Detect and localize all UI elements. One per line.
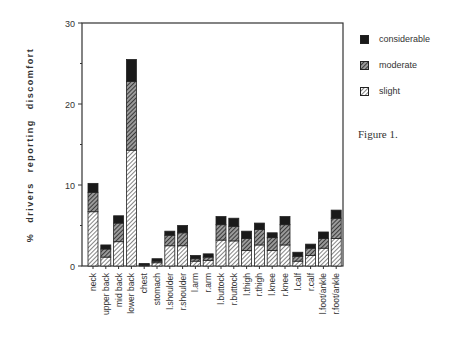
bar-neck <box>88 183 98 266</box>
bar-r-calf <box>306 244 316 266</box>
bar-segment-considerable <box>203 254 213 257</box>
legend-item-slight: slight <box>360 85 430 97</box>
bar-segment-considerable <box>152 259 162 261</box>
x-tick-label: lower back <box>126 272 136 313</box>
bar-segment-slight <box>178 246 188 266</box>
bar-segment-slight <box>152 263 162 266</box>
bar-segment-moderate <box>203 257 213 260</box>
bar-segment-moderate <box>331 218 341 238</box>
bar-segment-slight <box>101 257 111 266</box>
bar-segment-considerable <box>293 252 303 256</box>
legend-swatch-considerable <box>360 35 369 44</box>
bar-segment-slight <box>306 255 316 266</box>
bar-l-foot-ankle <box>318 232 328 266</box>
x-tick-label: l.knee <box>267 273 277 296</box>
bar-segment-moderate <box>242 238 252 250</box>
bar-segment-moderate <box>114 223 124 242</box>
bar-segment-slight <box>165 246 175 266</box>
bar-segment-slight <box>280 245 290 266</box>
bar-r-buttock <box>229 218 239 266</box>
bar-segment-moderate <box>267 238 277 251</box>
legend-label: moderate <box>379 60 417 70</box>
bar-segment-moderate <box>293 256 303 261</box>
bar-segment-considerable <box>216 217 226 225</box>
bar-segment-considerable <box>88 183 98 192</box>
chart-bars <box>88 59 341 266</box>
x-axis-labels: neckupper backmid backlower backcheststo… <box>88 266 341 315</box>
bar-segment-considerable <box>280 217 290 225</box>
bar-segment-slight <box>216 240 226 266</box>
bar-segment-considerable <box>331 210 341 218</box>
bar-segment-moderate <box>88 192 98 211</box>
bar-segment-considerable <box>254 223 264 229</box>
x-tick-label: chest <box>139 272 149 293</box>
bar-segment-moderate <box>254 230 264 245</box>
bar-segment-slight <box>331 238 341 266</box>
bar-segment-slight <box>267 251 277 266</box>
bar-segment-considerable <box>267 233 277 238</box>
bar-upper-back <box>101 245 111 266</box>
bar-chest <box>139 264 149 266</box>
legend-label: considerable <box>379 34 430 44</box>
legend-item-considerable: considerable <box>360 33 430 45</box>
bar-r-foot-ankle <box>331 210 341 266</box>
x-tick-label: r.knee <box>280 273 290 296</box>
bar-lower-back <box>126 59 136 266</box>
bar-l-buttock <box>216 217 226 266</box>
x-tick-label: l.shoulder <box>165 273 175 310</box>
bar-segment-considerable <box>190 255 200 258</box>
bar-segment-slight <box>254 245 264 266</box>
bar-stomach <box>152 259 162 266</box>
x-tick-label: stomach <box>152 273 162 305</box>
figure-caption: Figure 1. <box>358 128 398 140</box>
bar-segment-considerable <box>139 264 149 265</box>
bar-segment-slight <box>318 248 328 266</box>
bar-segment-considerable <box>318 232 328 238</box>
x-tick-label: r.arm <box>203 273 213 292</box>
bar-r-shoulder <box>178 226 188 267</box>
x-tick-label: r.thigh <box>254 273 264 296</box>
bar-segment-considerable <box>306 244 316 248</box>
y-tick-label: 10 <box>65 181 75 191</box>
bar-segment-moderate <box>280 225 290 245</box>
bar-segment-moderate <box>126 81 136 150</box>
bar-segment-moderate <box>216 225 226 240</box>
y-tick-label: 20 <box>65 100 75 110</box>
x-tick-label: upper back <box>101 272 111 315</box>
bar-segment-considerable <box>242 231 252 238</box>
bar-r-arm <box>203 254 213 266</box>
bar-segment-slight <box>229 241 239 266</box>
bar-segment-moderate <box>318 238 328 248</box>
bar-segment-moderate <box>229 226 239 241</box>
bar-segment-moderate <box>101 249 111 257</box>
x-tick-label: r.buttock <box>229 272 239 305</box>
chart-legend: considerable moderate slight <box>360 33 430 111</box>
x-tick-label: r.shoulder <box>178 273 188 310</box>
x-tick-label: l.calf <box>293 272 303 290</box>
x-tick-label: neck <box>88 272 98 291</box>
y-axis-label: % drivers reporting discomfort <box>25 48 35 243</box>
bar-segment-moderate <box>178 233 188 246</box>
legend-item-moderate: moderate <box>360 59 430 71</box>
bar-l-arm <box>190 255 200 266</box>
x-tick-label: r.foot/ankle <box>331 273 341 315</box>
bar-l-knee <box>267 233 277 266</box>
x-tick-label: l.thigh <box>242 273 252 296</box>
x-tick-label: r.calf <box>306 272 316 291</box>
bar-r-knee <box>280 217 290 266</box>
bar-mid-back <box>114 216 124 266</box>
bar-segment-moderate <box>165 235 175 246</box>
bar-segment-slight <box>242 251 252 266</box>
bar-segment-considerable <box>165 231 175 235</box>
bar-segment-slight <box>190 261 200 266</box>
x-tick-label: l.arm <box>190 273 200 292</box>
bar-segment-moderate <box>306 248 316 255</box>
bar-segment-slight <box>126 150 136 266</box>
x-tick-label: mid back <box>114 272 124 307</box>
bar-segment-considerable <box>229 218 239 226</box>
bar-segment-considerable <box>101 245 111 249</box>
x-tick-label: l.foot/ankle <box>318 273 328 314</box>
bar-r-thigh <box>254 223 264 266</box>
legend-label: slight <box>379 86 400 96</box>
bar-l-thigh <box>242 231 252 266</box>
